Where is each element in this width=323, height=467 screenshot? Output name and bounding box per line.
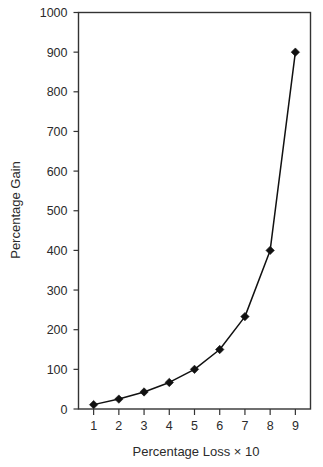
x-axis-tick-label: 1 bbox=[90, 419, 97, 433]
x-axis-tick-label: 2 bbox=[115, 419, 122, 433]
chart-container: 01002003004005006007008009001000 1234567… bbox=[0, 0, 323, 467]
y-axis-tick-label: 0 bbox=[61, 403, 68, 417]
percentage-gain-line-chart: 01002003004005006007008009001000 1234567… bbox=[0, 0, 323, 467]
x-axis-tick-label-group: 123456789 bbox=[90, 419, 299, 433]
y-axis-tick-label: 300 bbox=[47, 284, 68, 298]
y-axis-tick-label: 900 bbox=[47, 46, 68, 60]
x-axis-tick-label: 8 bbox=[267, 419, 274, 433]
y-axis-tick-label: 700 bbox=[47, 125, 68, 139]
y-axis-title: Percentage Gain bbox=[8, 161, 23, 259]
x-axis-tick-label: 5 bbox=[191, 419, 198, 433]
x-axis-tick-label: 4 bbox=[166, 419, 173, 433]
y-axis-tick-label: 600 bbox=[47, 165, 68, 179]
y-axis-tick-label: 1000 bbox=[40, 6, 68, 20]
y-axis-tick-label: 100 bbox=[47, 363, 68, 377]
x-axis-tick-label: 9 bbox=[292, 419, 299, 433]
y-axis-tick-label: 500 bbox=[47, 204, 68, 218]
y-axis-tick-label: 200 bbox=[47, 323, 68, 337]
y-axis-tick-label: 800 bbox=[47, 85, 68, 99]
chart-background bbox=[0, 0, 323, 467]
x-axis-tick-label: 7 bbox=[241, 419, 248, 433]
x-axis-title: Percentage Loss × 10 bbox=[133, 444, 260, 459]
x-axis-tick-label: 6 bbox=[216, 419, 223, 433]
x-axis-tick-label: 3 bbox=[141, 419, 148, 433]
y-axis-tick-label: 400 bbox=[47, 244, 68, 258]
